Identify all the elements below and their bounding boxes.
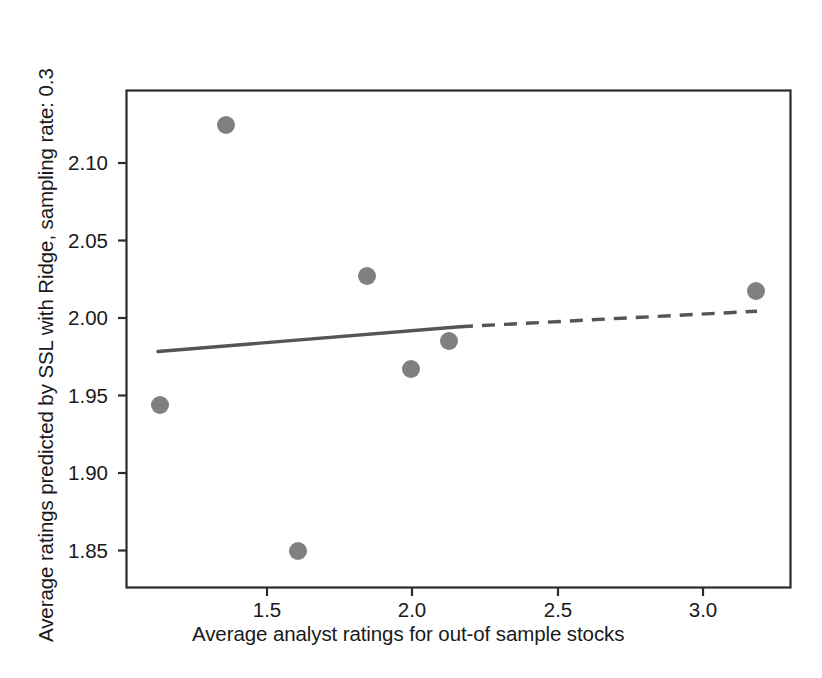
data-point: [402, 360, 420, 378]
x-tick-label: 2.0: [380, 598, 444, 622]
data-point: [217, 116, 235, 134]
x-tick-label: 2.5: [526, 598, 590, 622]
plot-canvas: [0, 0, 822, 678]
x-tick-label: 1.5: [235, 598, 299, 622]
data-point: [289, 542, 307, 560]
y-axis-ticks: [118, 163, 126, 551]
scatter-plot-figure: 2.10 2.05 2.00 1.95 1.90 1.85 1.5 2.0 2.…: [0, 0, 822, 678]
data-point: [747, 282, 765, 300]
x-tick-label: 3.0: [671, 598, 735, 622]
plot-frame: [127, 91, 791, 588]
data-point: [151, 396, 169, 414]
data-point: [358, 267, 376, 285]
y-axis-title: Average ratings predicted by SSL with Ri…: [34, 68, 58, 642]
data-point: [440, 332, 458, 350]
x-axis-title: Average analyst ratings for out-of sampl…: [192, 622, 624, 646]
